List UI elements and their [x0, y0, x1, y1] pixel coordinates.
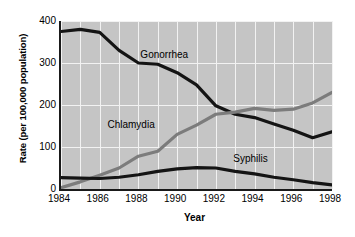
x-tick-label: 1990 — [155, 193, 195, 204]
x-tick-label: 1988 — [116, 193, 156, 204]
x-tick-label: 1998 — [310, 193, 350, 204]
chart-figure: Rate (per 100,000 population) 0100200300… — [0, 0, 355, 237]
y-tick-label: 400 — [22, 16, 56, 26]
grid-line-vertical — [332, 21, 333, 189]
y-tick-label: 200 — [22, 100, 56, 110]
x-tick-label: 1996 — [271, 193, 311, 204]
x-axis-tick-labels: 19841986198819901992199419961998 — [59, 193, 330, 207]
y-tick-label: 300 — [22, 58, 56, 68]
y-axis-tick-labels: 0100200300400 — [22, 16, 56, 192]
series-annotation-layer: GonorrheaChlamydiaSyphilis — [61, 21, 332, 189]
x-tick-label: 1984 — [39, 193, 79, 204]
y-tick-label: 100 — [22, 142, 56, 152]
x-tick-label: 1992 — [194, 193, 234, 204]
x-tick-label: 1986 — [78, 193, 118, 204]
series-label-syphilis: Syphilis — [233, 153, 267, 164]
x-axis-title: Year — [59, 212, 330, 223]
x-tick-label: 1994 — [233, 193, 273, 204]
plot-area: GonorrheaChlamydiaSyphilis — [59, 21, 332, 191]
series-label-chlamydia: Chlamydia — [107, 119, 154, 130]
series-label-gonorrhea: Gonorrhea — [140, 49, 188, 60]
